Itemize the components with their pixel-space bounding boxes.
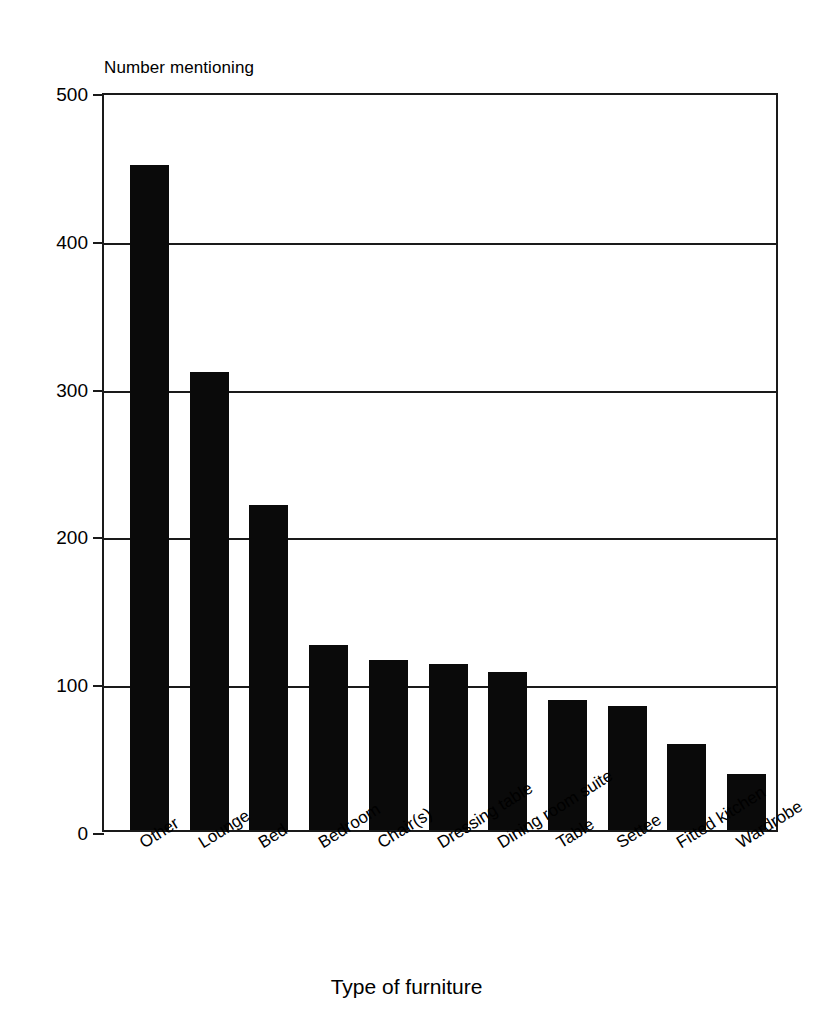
y-axis-tick-mark (93, 537, 104, 539)
y-axis-tick-mark (93, 94, 104, 96)
bar (667, 744, 706, 830)
y-axis-tick-mark (93, 685, 104, 687)
bar (130, 165, 169, 830)
y-axis-tick-mark (93, 242, 104, 244)
bar-chart-figure: Number mentioning 0100200300400500 Other… (0, 0, 813, 1029)
bar (429, 664, 468, 830)
x-axis-tick-labels: OtherLoungeBedBedroomChair(s)Dressing ta… (102, 836, 778, 956)
bar (190, 372, 229, 830)
bar (249, 505, 288, 830)
y-axis-tick-label: 200 (56, 527, 88, 549)
y-axis-tick-label: 100 (56, 675, 88, 697)
y-axis-tick-label: 0 (77, 823, 88, 845)
y-axis-tick-label: 400 (56, 232, 88, 254)
y-axis-tick-mark (93, 390, 104, 392)
y-axis-tick-mark (93, 833, 104, 835)
y-axis-tick-label: 300 (56, 380, 88, 402)
y-axis-title: Number mentioning (104, 58, 254, 78)
x-axis-title: Type of furniture (0, 975, 813, 999)
bar (608, 706, 647, 830)
plot-area: 0100200300400500 (102, 93, 778, 832)
bar (309, 645, 348, 830)
y-axis-tick-label: 500 (56, 84, 88, 106)
bars-group (104, 95, 776, 830)
